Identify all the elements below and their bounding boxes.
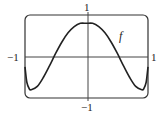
x-max-label: 1 — [151, 52, 157, 63]
y-max-label: 1 — [84, 2, 90, 13]
x-min-label: −1 — [7, 52, 19, 63]
curve-label-f: f — [119, 30, 122, 42]
chart-canvas — [0, 0, 160, 116]
y-min-label: −1 — [81, 102, 93, 113]
